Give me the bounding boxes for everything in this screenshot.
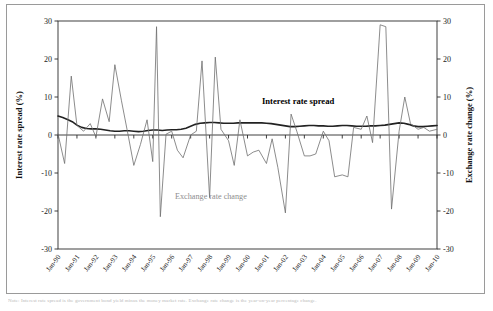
x-axis-tick-label: Jan-92 <box>82 253 100 273</box>
y-axis-title: Interest rate spread (%) <box>14 91 24 179</box>
x-axis-tick-label: Jan-97 <box>177 253 195 273</box>
x-axis-tick-label: Jan-00 <box>234 253 252 273</box>
x-axis-tick-label: Jan-90 <box>44 253 62 273</box>
y-axis-tick-label: 20 <box>44 55 52 64</box>
x-axis-tick-label: Jan-04 <box>310 253 328 273</box>
y2-axis-tick-label: -10 <box>443 169 454 178</box>
figure-container: 3020100-10-20-303020100-10-20-30Jan-90Ja… <box>0 0 493 311</box>
y-axis-tick-label: 0 <box>48 131 52 140</box>
x-axis-tick-label: Jan-02 <box>272 253 290 273</box>
annotation-exchange-rate-change: Exchange rate change <box>175 192 247 201</box>
y-axis-tick-label: 10 <box>44 93 52 102</box>
x-axis-tick-label: Jan-91 <box>63 253 81 273</box>
x-axis-tick-label: Jan-06 <box>348 253 366 273</box>
annotation-interest-rate-spread: Interest rate spread <box>262 96 334 106</box>
x-axis-tick-label: Jan-09 <box>405 253 423 273</box>
y-axis-tick-label: -20 <box>41 207 52 216</box>
series-exchange-rate-change <box>58 25 437 217</box>
x-axis-tick-label: Jan-98 <box>196 253 214 273</box>
chart-canvas: 3020100-10-20-303020100-10-20-30Jan-90Ja… <box>0 0 493 311</box>
y2-axis-tick-label: 20 <box>443 55 451 64</box>
x-axis-tick-label: Jan-95 <box>139 253 157 273</box>
series-interest-rate-spread <box>58 116 437 132</box>
figure-caption: Note: Interest rate spread is the govern… <box>8 297 488 304</box>
y2-axis-tick-label: 0 <box>443 131 447 140</box>
x-axis-tick-label: Jan-01 <box>253 253 271 273</box>
y-axis-tick-label: 30 <box>44 17 52 26</box>
x-axis-tick-label: Jan-03 <box>291 253 309 273</box>
y2-axis-tick-label: -20 <box>443 207 454 216</box>
y2-axis-tick-label: 10 <box>443 93 451 102</box>
y2-axis-tick-label: 30 <box>443 17 451 26</box>
x-axis-tick-label: Jan-96 <box>158 253 176 273</box>
x-axis-tick-label: Jan-99 <box>215 253 233 273</box>
x-axis-tick-label: Jan-10 <box>423 253 441 273</box>
x-axis-tick-label: Jan-05 <box>329 253 347 273</box>
y-axis-tick-label: -10 <box>41 169 52 178</box>
y2-axis-tick-label: -30 <box>443 245 454 254</box>
x-axis-tick-label: Jan-94 <box>120 253 138 273</box>
x-axis-tick-label: Jan-08 <box>386 253 404 273</box>
x-axis-tick-label: Jan-93 <box>101 253 119 273</box>
x-axis-tick-label: Jan-07 <box>367 253 385 273</box>
y2-axis-title: Exchange rate change (%) <box>464 87 474 183</box>
y-axis-tick-label: -30 <box>41 245 52 254</box>
